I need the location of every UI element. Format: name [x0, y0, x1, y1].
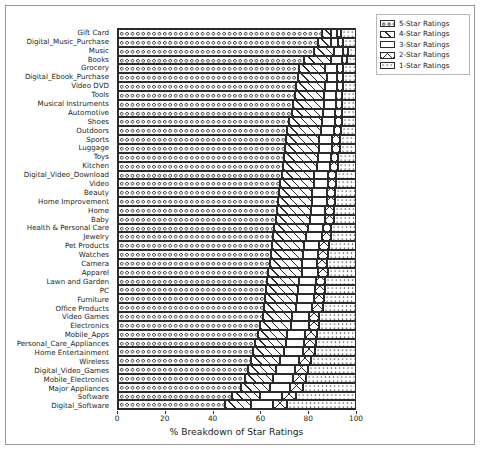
bar-segment[interactable] [303, 383, 355, 392]
bar-segment[interactable] [341, 126, 355, 135]
bar-segment[interactable] [272, 241, 304, 250]
bar-segment[interactable] [118, 117, 289, 126]
bar-segment[interactable] [327, 197, 335, 206]
bar-segment[interactable] [118, 330, 258, 339]
bar-segment[interactable] [255, 339, 286, 348]
bar-row[interactable] [118, 365, 355, 374]
bar-segment[interactable] [304, 241, 319, 250]
bar-segment[interactable] [334, 215, 355, 224]
bar-row[interactable] [118, 162, 355, 171]
bar-segment[interactable] [296, 303, 313, 312]
bar-segment[interactable] [118, 321, 260, 330]
bar-segment[interactable] [302, 268, 319, 277]
bar-segment[interactable] [291, 321, 309, 330]
bar-segment[interactable] [260, 392, 281, 401]
bar-segment[interactable] [334, 206, 355, 215]
bar-segment[interactable] [118, 294, 265, 303]
bar-segment[interactable] [317, 162, 330, 171]
bar-segment[interactable] [328, 171, 336, 180]
bar-segment[interactable] [325, 285, 355, 294]
bar-segment[interactable] [279, 188, 312, 197]
bar-row[interactable] [118, 392, 355, 401]
bar-segment[interactable] [322, 29, 331, 38]
bar-row[interactable] [118, 47, 355, 56]
bar-segment[interactable] [290, 383, 303, 392]
bar-segment[interactable] [322, 232, 331, 241]
bar-segment[interactable] [283, 162, 317, 171]
bar-segment[interactable] [342, 100, 355, 109]
bar-segment[interactable] [293, 374, 306, 383]
bar-segment[interactable] [303, 347, 315, 356]
bar-segment[interactable] [332, 135, 339, 144]
bar-segment[interactable] [265, 294, 297, 303]
bar-segment[interactable] [317, 330, 355, 339]
bar-segment[interactable] [118, 144, 285, 153]
bar-segment[interactable] [280, 179, 313, 188]
bar-row[interactable] [118, 126, 355, 135]
bar-segment[interactable] [118, 347, 253, 356]
bar-segment[interactable] [118, 188, 279, 197]
bar-segment[interactable] [335, 117, 342, 126]
bar-segment[interactable] [338, 162, 355, 171]
bar-segment[interactable] [324, 91, 336, 100]
bar-segment[interactable] [325, 215, 333, 224]
bar-segment[interactable] [325, 82, 337, 91]
bar-row[interactable] [118, 250, 355, 259]
bar-row[interactable] [118, 241, 355, 250]
bar-segment[interactable] [118, 224, 274, 233]
bar-segment[interactable] [341, 29, 355, 38]
bar-segment[interactable] [318, 250, 327, 259]
bar-row[interactable] [118, 347, 355, 356]
bar-segment[interactable] [328, 250, 355, 259]
bar-segment[interactable] [276, 365, 295, 374]
bar-row[interactable] [118, 268, 355, 277]
bar-segment[interactable] [263, 312, 293, 321]
bar-segment[interactable] [118, 400, 225, 409]
bar-segment[interactable] [118, 73, 298, 82]
bar-row[interactable] [118, 100, 355, 109]
bar-segment[interactable] [327, 259, 355, 268]
bar-row[interactable] [118, 356, 355, 365]
bar-segment[interactable] [118, 365, 248, 374]
bar-segment[interactable] [118, 383, 241, 392]
bar-segment[interactable] [323, 109, 335, 118]
bar-segment[interactable] [296, 82, 326, 91]
bar-segment[interactable] [319, 135, 332, 144]
bar-segment[interactable] [318, 153, 331, 162]
bar-segment[interactable] [312, 303, 323, 312]
bar-segment[interactable] [342, 117, 355, 126]
bar-segment[interactable] [343, 64, 355, 73]
bar-segment[interactable] [318, 268, 327, 277]
bar-segment[interactable] [335, 109, 342, 118]
bar-segment[interactable] [118, 374, 245, 383]
bar-segment[interactable] [118, 179, 280, 188]
bar-segment[interactable] [270, 383, 290, 392]
bar-segment[interactable] [267, 277, 299, 286]
bar-segment[interactable] [335, 197, 355, 206]
bar-segment[interactable] [241, 383, 269, 392]
bar-segment[interactable] [268, 268, 301, 277]
bar-row[interactable] [118, 64, 355, 73]
bar-segment[interactable] [118, 215, 276, 224]
legend-item[interactable]: 5-Star Ratings [380, 19, 465, 29]
bar-segment[interactable] [324, 294, 355, 303]
bar-segment[interactable] [277, 206, 311, 215]
bar-row[interactable] [118, 56, 355, 65]
bar-segment[interactable] [118, 126, 287, 135]
bar-segment[interactable] [118, 356, 251, 365]
bar-segment[interactable] [118, 82, 296, 91]
bar-segment[interactable] [266, 285, 298, 294]
bar-segment[interactable] [306, 232, 321, 241]
bar-segment[interactable] [328, 179, 336, 188]
bar-segment[interactable] [273, 400, 287, 409]
bar-segment[interactable] [280, 356, 299, 365]
bar-row[interactable] [118, 144, 355, 153]
bar-segment[interactable] [304, 56, 331, 65]
bar-row[interactable] [118, 38, 355, 47]
bar-segment[interactable] [340, 144, 355, 153]
bar-segment[interactable] [253, 347, 284, 356]
bar-segment[interactable] [118, 109, 292, 118]
bar-segment[interactable] [286, 339, 304, 348]
bar-segment[interactable] [323, 303, 355, 312]
bar-segment[interactable] [118, 250, 271, 259]
